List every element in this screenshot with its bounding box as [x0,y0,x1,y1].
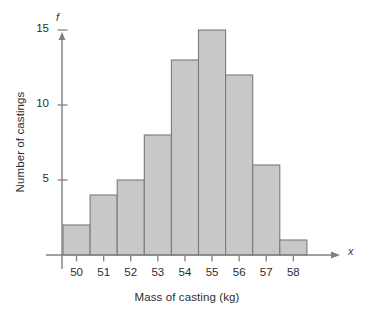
plot-area [0,0,372,320]
histogram-bar [144,135,171,255]
histogram-bar [199,30,226,255]
x-axis-arrow-icon [331,251,340,258]
histogram-bar [226,75,253,255]
y-axis-arrow-icon [59,32,66,40]
histogram-bar [253,165,280,255]
histogram-bar [171,60,198,255]
histogram-bar [90,195,117,255]
histogram-chart: Number of castings Mass of casting (kg) … [0,0,372,320]
histogram-bar [117,180,144,255]
histogram-bar [280,240,307,255]
bars-group [63,30,307,255]
histogram-bar [63,225,90,255]
